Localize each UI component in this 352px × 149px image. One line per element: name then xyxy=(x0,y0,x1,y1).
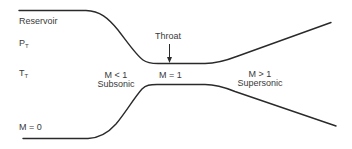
throat-arrow-head xyxy=(167,57,172,63)
nozzle-lower-wall xyxy=(23,85,336,139)
inlet-mach-label: M = 0 xyxy=(19,123,42,132)
subsonic-label: Subsonic xyxy=(92,80,140,89)
pressure-label: PT xyxy=(19,39,29,49)
temperature-subscript: T xyxy=(25,73,29,79)
temperature-label: TT xyxy=(19,69,28,79)
throat-mach-label: M = 1 xyxy=(159,71,182,80)
supersonic-label: Supersonic xyxy=(232,79,288,88)
reservoir-label: Reservoir xyxy=(19,17,58,26)
throat-label: Throat xyxy=(155,32,181,41)
pressure-subscript: T xyxy=(25,43,29,49)
